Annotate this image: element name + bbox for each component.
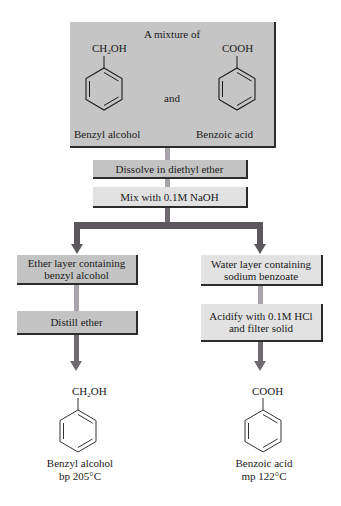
benzyl-alcohol-boiling-point: bp 205°C bbox=[38, 470, 122, 482]
connector-line bbox=[258, 286, 263, 304]
benzyl-alcohol-name: Benzyl alcohol bbox=[74, 128, 140, 140]
benzoic-acid-group-label: COOH bbox=[222, 42, 253, 54]
benzoic-acid-ring-icon bbox=[213, 54, 263, 120]
acidify-step-box: Acidify with 0.1M HCl and filter solid bbox=[201, 304, 323, 342]
dissolve-step-label: Dissolve in diethyl ether bbox=[116, 163, 224, 175]
connector-line bbox=[165, 148, 170, 160]
water-layer-line1: Water layer containing bbox=[211, 258, 311, 270]
mix-step-label: Mix with 0.1M NaOH bbox=[120, 191, 218, 203]
down-arrow-icon bbox=[254, 244, 266, 254]
down-arrow-icon bbox=[70, 361, 82, 371]
benzyl-alcohol-ring-icon bbox=[80, 54, 130, 120]
dissolve-step-box: Dissolve in diethyl ether bbox=[93, 160, 248, 179]
mix-step-box: Mix with 0.1M NaOH bbox=[93, 187, 248, 208]
benzoic-acid-melting-point: mp 122°C bbox=[222, 470, 306, 482]
acidify-step-line1: Acidify with 0.1M HCl bbox=[209, 310, 312, 322]
mixture-header: A mixture of bbox=[70, 28, 274, 40]
benzoic-acid-name: Benzoic acid bbox=[196, 128, 253, 140]
benzyl-alcohol-product-name: Benzyl alcohol bbox=[38, 457, 122, 469]
connector-line bbox=[74, 285, 79, 311]
connector-line bbox=[258, 342, 263, 363]
benzoic-acid-product-name: Benzoic acid bbox=[222, 457, 306, 469]
distill-step-label: Distill ether bbox=[50, 316, 102, 328]
down-arrow-icon bbox=[71, 244, 83, 254]
connector-line bbox=[74, 335, 79, 363]
connector-line bbox=[165, 179, 170, 187]
branch-bar bbox=[74, 222, 263, 229]
water-layer-box: Water layer containing sodium benzoate bbox=[201, 255, 323, 286]
ether-layer-line1: Ether layer containing bbox=[28, 257, 126, 269]
ether-layer-box: Ether layer containing benzyl alcohol bbox=[17, 255, 138, 285]
distill-step-box: Distill ether bbox=[17, 311, 138, 335]
benzyl-alcohol-product-ring-icon bbox=[54, 397, 104, 463]
water-layer-line2: sodium benzoate bbox=[211, 270, 311, 282]
connector-line bbox=[165, 208, 170, 223]
right-branch-line bbox=[257, 222, 263, 245]
starting-mixture-box: A mixture of CH2OH Benzyl alcohol and CO… bbox=[70, 22, 276, 148]
acidify-step-line2: and filter solid bbox=[209, 322, 312, 334]
benzoic-acid-product-group-label: COOH bbox=[252, 385, 283, 397]
left-branch-line bbox=[74, 222, 80, 245]
benzoic-acid-product-ring-icon bbox=[239, 397, 289, 463]
ether-layer-line2: benzyl alcohol bbox=[28, 269, 126, 281]
down-arrow-icon bbox=[254, 361, 266, 371]
